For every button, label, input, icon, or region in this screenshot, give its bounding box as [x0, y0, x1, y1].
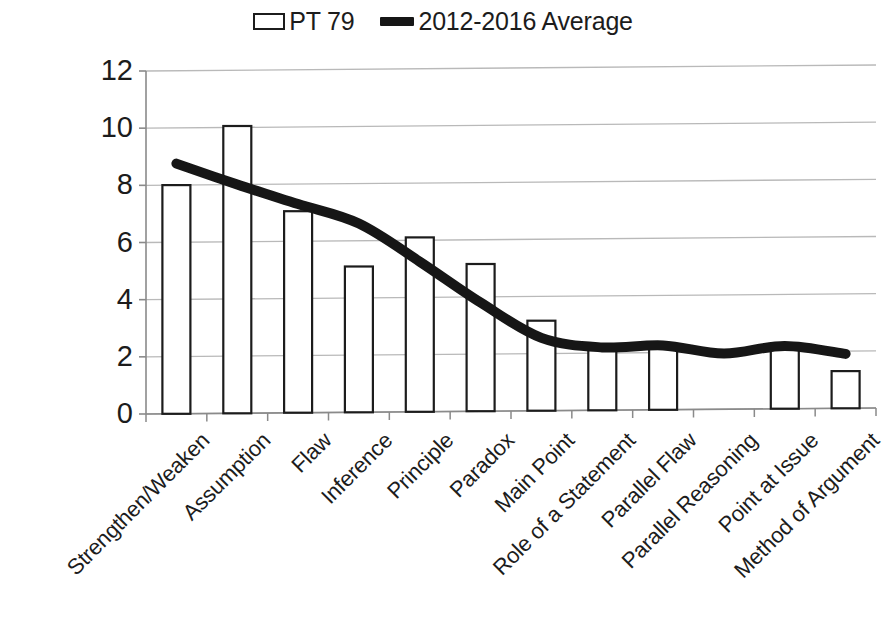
- y-axis-tick-label: 12: [85, 56, 133, 85]
- y-axis-tick-label: 0: [85, 399, 133, 428]
- y-axis-tick-label: 4: [85, 285, 133, 314]
- y-axis-tick-label: 10: [85, 113, 133, 142]
- chart-root: PT 79 2012-2016 Average Strengthen/Weake…: [0, 0, 886, 626]
- gridline: [146, 237, 876, 243]
- bar[interactable]: Method of Argument: 1.3: [832, 371, 860, 408]
- gridline: [146, 122, 876, 128]
- bar-series: Strengthen/Weaken: 8Assumption: 10.05Fla…: [162, 126, 859, 414]
- y-axis-tick-label: 6: [85, 228, 133, 257]
- y-axis-tick-label: 8: [85, 170, 133, 199]
- bar[interactable]: Inference: 5.1: [345, 267, 373, 413]
- bar[interactable]: Strengthen/Weaken: 8: [162, 185, 190, 414]
- y-axis-tick-label: 2: [85, 342, 133, 371]
- gridlines: [146, 65, 876, 414]
- bar[interactable]: Assumption: 10.05: [223, 126, 251, 413]
- bar[interactable]: Point at Issue: 2.25: [771, 344, 799, 408]
- gridline: [146, 294, 876, 300]
- bar[interactable]: Parallel Flaw: 2.2: [649, 347, 677, 410]
- gridline: [146, 65, 876, 71]
- bar[interactable]: Role of a Statement: 2.2: [588, 347, 616, 410]
- bar[interactable]: Flaw: 7.05: [284, 211, 312, 413]
- bar[interactable]: Paradox: 5.15: [467, 264, 495, 411]
- gridline: [146, 179, 876, 185]
- average-line[interactable]: [176, 164, 845, 354]
